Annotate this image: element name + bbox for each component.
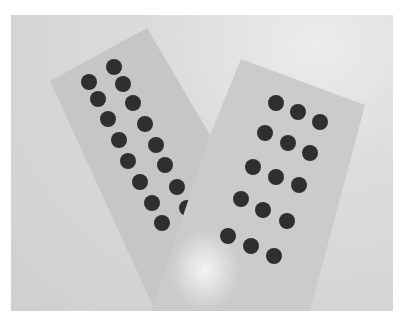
- dot: [268, 169, 284, 185]
- dot: [90, 91, 106, 107]
- dot: [100, 111, 116, 127]
- dot: [111, 132, 127, 148]
- dot: [245, 159, 261, 175]
- cards-scene: [0, 0, 405, 321]
- dot: [243, 238, 259, 254]
- dot: [257, 125, 273, 141]
- dot: [268, 95, 284, 111]
- dot: [132, 174, 148, 190]
- dot: [279, 213, 295, 229]
- dot: [169, 179, 185, 195]
- dot: [120, 153, 136, 169]
- dot: [220, 228, 236, 244]
- dot: [255, 202, 271, 218]
- dot: [233, 191, 249, 207]
- dot: [106, 59, 122, 75]
- dot: [81, 74, 97, 90]
- dot: [137, 116, 153, 132]
- dot: [115, 76, 131, 92]
- dot: [266, 248, 282, 264]
- dot: [144, 195, 160, 211]
- dot: [154, 215, 170, 231]
- dot: [312, 114, 328, 130]
- dot: [302, 145, 318, 161]
- dot: [290, 104, 306, 120]
- dot: [157, 157, 173, 173]
- dot: [280, 135, 296, 151]
- dot: [148, 137, 164, 153]
- dot: [291, 177, 307, 193]
- dot: [125, 95, 141, 111]
